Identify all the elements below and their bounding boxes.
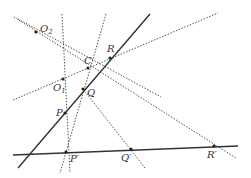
point-P-prime: P′	[64, 150, 79, 164]
point-marker	[34, 30, 37, 33]
line-Q-Pprime	[60, 14, 106, 173]
dotted-construction-lines	[13, 13, 236, 173]
point-label: R′	[206, 149, 218, 160]
point-Q-prime: Q′	[121, 147, 133, 163]
point-label: Q	[87, 87, 95, 98]
point-label: O2	[40, 23, 53, 36]
point-marker	[63, 111, 66, 114]
point-marker	[64, 150, 67, 153]
point-marker	[108, 56, 111, 59]
point-marker	[129, 147, 132, 150]
solid-lines	[13, 14, 238, 168]
point-label: O1	[53, 82, 66, 95]
point-label: R	[106, 43, 115, 54]
point-label: P′	[69, 153, 80, 164]
point-label: P	[55, 107, 63, 118]
labeled-points: O2CRO1QPP′Q′R′	[34, 23, 217, 164]
point-label: C	[84, 55, 92, 66]
line-O2-Rprime	[14, 17, 236, 158]
point-marker	[61, 77, 64, 80]
point-O1: O1	[53, 77, 66, 95]
point-marker	[212, 144, 215, 147]
geometry-diagram: O2CRO1QPP′Q′R′	[0, 0, 251, 178]
point-label: Q′	[121, 152, 132, 163]
point-marker	[81, 87, 84, 90]
line-Q-Qprime	[83, 89, 145, 168]
line-PQR	[18, 14, 150, 168]
point-P: P	[55, 107, 67, 118]
point-marker	[86, 66, 89, 69]
